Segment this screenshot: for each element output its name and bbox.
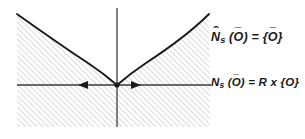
figure-root: ˆNs (¯O) = {¯O} Ns (¯O) = R x {O} bbox=[0, 0, 305, 139]
origin-point-marker bbox=[114, 82, 119, 87]
hatched-region bbox=[17, 8, 210, 127]
cusp-region-plot bbox=[0, 0, 305, 139]
